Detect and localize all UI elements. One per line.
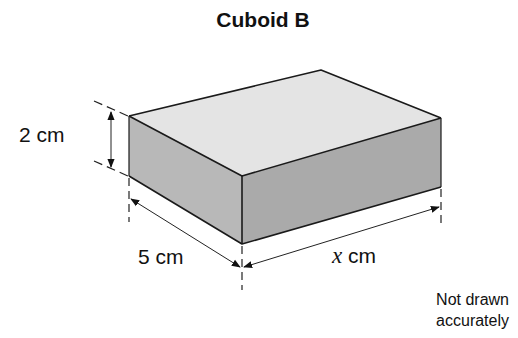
diagram-title: Cuboid B xyxy=(0,9,518,30)
height-label: 2 cm xyxy=(19,124,65,145)
height-dimension xyxy=(94,101,128,176)
length-unit: cm xyxy=(342,244,376,267)
width-label: 5 cm xyxy=(138,246,184,267)
note-not-drawn: Not drawn xyxy=(436,289,509,310)
cuboid xyxy=(129,70,441,244)
cuboid-diagram xyxy=(0,0,518,338)
length-label: x cm xyxy=(332,244,376,267)
note-accurately: accurately xyxy=(436,310,509,331)
length-variable: x xyxy=(332,243,342,268)
